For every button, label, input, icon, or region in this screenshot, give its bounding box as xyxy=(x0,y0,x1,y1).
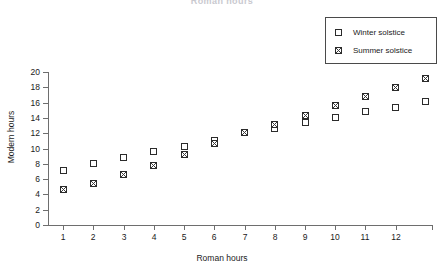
data-point-summer-solstice xyxy=(302,112,309,119)
x-axis-tick-label: 2 xyxy=(83,232,103,242)
x-axis-tick xyxy=(305,225,306,230)
y-axis-tick xyxy=(43,194,49,195)
x-axis-tick xyxy=(275,225,276,230)
x-axis-tick-label: 10 xyxy=(325,232,345,242)
x-axis-tick xyxy=(63,225,64,230)
data-point-summer-solstice xyxy=(150,162,157,169)
data-point-winter-solstice xyxy=(332,114,339,121)
data-point-summer-solstice xyxy=(362,93,369,100)
y-axis-tick-label: 12 xyxy=(14,129,40,137)
data-point-summer-solstice xyxy=(392,84,399,91)
y-axis-tick xyxy=(43,133,49,134)
y-axis-tick-label: 2 xyxy=(14,206,40,214)
x-axis-tick-label: 8 xyxy=(265,232,285,242)
x-axis-tick xyxy=(396,225,397,230)
x-axis-tick xyxy=(335,225,336,230)
x-axis-tick-label: 6 xyxy=(204,232,224,242)
data-point-summer-solstice xyxy=(90,180,97,187)
x-axis-tick xyxy=(154,225,155,230)
y-axis-tick-label: 20 xyxy=(14,68,40,76)
x-axis-tick-label: 5 xyxy=(174,232,194,242)
y-axis-tick xyxy=(43,225,49,226)
data-point-winter-solstice xyxy=(422,98,429,105)
data-point-winter-solstice xyxy=(362,108,369,115)
x-axis-tick-label: 11 xyxy=(355,232,375,242)
y-axis-tick-label: 6 xyxy=(14,175,40,183)
data-point-winter-solstice xyxy=(302,119,309,126)
x-axis-title: Roman hours xyxy=(0,253,444,263)
y-axis-tick xyxy=(43,210,49,211)
y-axis-tick-label: 0 xyxy=(14,221,40,229)
y-axis-tick-label: 8 xyxy=(14,160,40,168)
y-axis-tick-label: 16 xyxy=(14,99,40,107)
data-point-summer-solstice xyxy=(181,151,188,158)
x-axis-tick xyxy=(365,225,366,230)
plot-area: 02468101214161820 123456789101112 Modern… xyxy=(0,0,444,276)
x-axis-tick-label: 12 xyxy=(386,232,406,242)
data-point-winter-solstice xyxy=(120,154,127,161)
chart-canvas: Roman hours Winter solstice Summer solst… xyxy=(0,0,444,276)
data-point-summer-solstice xyxy=(60,186,67,193)
data-point-summer-solstice xyxy=(422,75,429,82)
data-point-winter-solstice xyxy=(150,148,157,155)
data-point-winter-solstice xyxy=(90,160,97,167)
data-point-winter-solstice xyxy=(392,104,399,111)
data-point-winter-solstice xyxy=(181,143,188,150)
x-axis-tick xyxy=(93,225,94,230)
x-axis-tick-label: 4 xyxy=(144,232,164,242)
x-axis-tick-label: 7 xyxy=(235,232,255,242)
data-point-summer-solstice xyxy=(120,171,127,178)
y-axis-tick-label: 14 xyxy=(14,114,40,122)
x-axis-line xyxy=(48,225,432,226)
x-axis-tick-label: 9 xyxy=(295,232,315,242)
y-axis-title: Modern hours xyxy=(6,92,16,182)
y-axis-tick-label: 18 xyxy=(14,83,40,91)
data-point-summer-solstice xyxy=(332,102,339,109)
x-axis-tick-label: 1 xyxy=(53,232,73,242)
y-axis-tick xyxy=(43,118,49,119)
data-point-winter-solstice xyxy=(60,167,67,174)
data-point-summer-solstice xyxy=(211,140,218,147)
data-point-summer-solstice xyxy=(271,121,278,128)
x-axis-tick xyxy=(214,225,215,230)
x-axis-tick-label: 3 xyxy=(114,232,134,242)
y-axis-tick xyxy=(43,87,49,88)
y-axis-tick-label: 10 xyxy=(14,145,40,153)
y-axis-tick-label: 4 xyxy=(14,190,40,198)
x-axis-tick xyxy=(124,225,125,230)
data-point-summer-solstice xyxy=(241,129,248,136)
y-axis-tick xyxy=(43,72,49,73)
y-axis-tick xyxy=(43,149,49,150)
y-axis-tick xyxy=(43,164,49,165)
x-axis-tick xyxy=(184,225,185,230)
y-axis-tick xyxy=(43,179,49,180)
x-axis-tick xyxy=(432,225,433,230)
y-axis-tick xyxy=(43,103,49,104)
x-axis-tick xyxy=(245,225,246,230)
